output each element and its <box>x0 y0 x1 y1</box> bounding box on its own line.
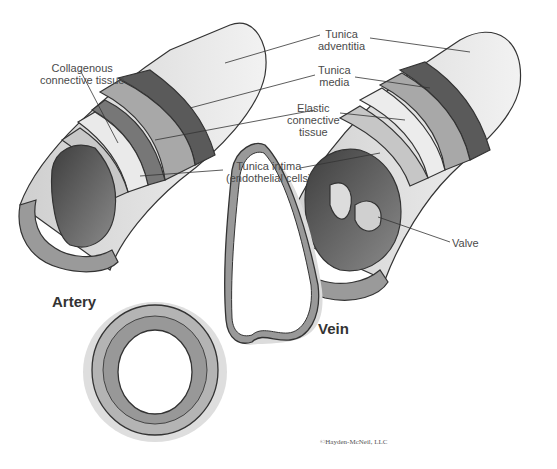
label-line: Collagenous <box>40 62 124 74</box>
label-collagenous: Collagenous connective tissue <box>40 62 124 86</box>
label-line: Tunica <box>318 64 351 76</box>
label-line: tissue <box>287 126 340 138</box>
label-adventitia: Tunica adventitia <box>318 28 365 52</box>
blood-vessel-diagram: Collagenous connective tissue Tunica adv… <box>0 0 557 469</box>
label-line: connective <box>287 114 340 126</box>
label-line: (endothelial cells) <box>226 172 312 184</box>
artery-cross-section <box>83 302 227 442</box>
copyright-notice: ©Hayden-McNeil, LLC <box>320 438 388 446</box>
label-intima: Tunica intima (endothelial cells) <box>226 160 312 184</box>
label-line: Tunica intima <box>226 160 312 172</box>
title-artery: Artery <box>52 293 96 310</box>
title-vein: Vein <box>318 320 349 337</box>
label-media: Tunica media <box>318 64 351 88</box>
label-line: Tunica <box>318 28 365 40</box>
label-elastic: Elastic connective tissue <box>287 102 340 138</box>
label-line: Elastic <box>287 102 340 114</box>
label-valve: Valve <box>452 237 479 249</box>
label-line: media <box>318 76 351 88</box>
label-line: connective tissue <box>40 74 124 86</box>
label-line: adventitia <box>318 40 365 52</box>
